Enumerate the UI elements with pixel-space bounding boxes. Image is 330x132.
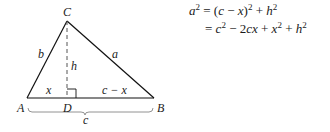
equation-line-2: = c2 − 2cx + x2 + h2	[205, 21, 307, 37]
label-c-minus-x: c − x	[102, 83, 127, 97]
label-D: D	[62, 101, 72, 115]
right-angle-mark	[67, 89, 76, 98]
exponent: 2	[273, 2, 278, 12]
minus-sign: −	[224, 3, 238, 18]
brace-c	[28, 108, 153, 115]
label-b: b	[38, 47, 44, 61]
plus-sign: +	[252, 3, 266, 18]
minus-two: − 2	[226, 21, 246, 36]
label-A: A	[16, 101, 25, 115]
var-cx: cx	[246, 21, 258, 36]
exponent: 2	[302, 20, 307, 30]
equals-sign: =	[205, 21, 216, 36]
equation-line-1: a2 = (c − x)2 + h2	[189, 3, 277, 19]
label-h: h	[71, 59, 77, 73]
label-c: c	[83, 113, 89, 127]
equals-paren: = (	[200, 3, 218, 18]
label-x: x	[45, 83, 52, 97]
label-C: C	[63, 5, 72, 19]
plus-sign: +	[258, 21, 272, 36]
label-B: B	[157, 101, 165, 115]
plus-sign: +	[282, 21, 296, 36]
label-a: a	[112, 47, 118, 61]
triangle-diagram: C A B D b a h x c − x c	[0, 0, 170, 132]
